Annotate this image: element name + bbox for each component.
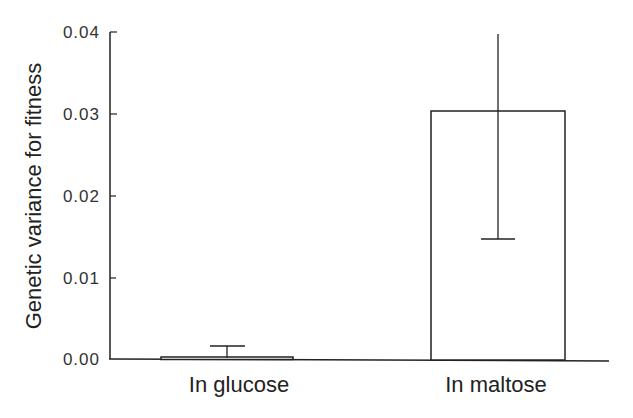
y-tick-label: 0.01 — [63, 269, 100, 288]
bar-in-glucose — [161, 346, 293, 360]
y-tick-label: 0.02 — [63, 187, 100, 206]
x-category-label: In maltose — [445, 372, 547, 397]
y-tick-label: 0.00 — [63, 350, 100, 369]
y-tick-label: 0.04 — [63, 23, 100, 42]
bar-chart: 0.04 0.03 0.02 0.01 0.00 Genetic varianc… — [0, 0, 633, 418]
y-tick-label: 0.03 — [63, 105, 100, 124]
y-ticks — [110, 32, 117, 278]
x-category-label: In glucose — [189, 372, 289, 397]
y-axis-title: Genetic variance for fitness — [21, 63, 46, 330]
bar-in-maltose — [431, 34, 565, 360]
y-tick-labels: 0.04 0.03 0.02 0.01 0.00 — [63, 23, 100, 369]
